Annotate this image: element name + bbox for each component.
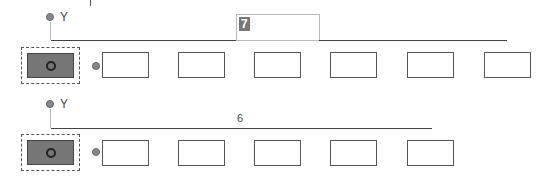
value-editor[interactable]: 7 bbox=[236, 14, 320, 41]
top-tick bbox=[90, 0, 91, 6]
origin-icon bbox=[46, 61, 56, 71]
span-line-right bbox=[319, 40, 507, 41]
span-line bbox=[51, 128, 432, 129]
cell-box[interactable] bbox=[484, 52, 531, 78]
y-connector bbox=[50, 109, 51, 128]
y-handle-icon[interactable] bbox=[46, 13, 54, 21]
cell-box[interactable] bbox=[407, 52, 454, 78]
value-text[interactable]: 6 bbox=[237, 112, 243, 124]
cell-box[interactable] bbox=[178, 52, 225, 78]
x-handle-icon[interactable] bbox=[92, 62, 100, 70]
y-label: Y bbox=[60, 97, 68, 111]
value-text[interactable]: 7 bbox=[239, 17, 250, 31]
x-handle-icon[interactable] bbox=[92, 148, 100, 156]
span-line bbox=[51, 40, 238, 41]
y-label: Y bbox=[60, 10, 68, 24]
origin-icon bbox=[46, 148, 56, 158]
y-handle-icon[interactable] bbox=[46, 100, 54, 108]
y-connector bbox=[50, 22, 51, 40]
anchor-block[interactable] bbox=[27, 53, 74, 78]
cell-box[interactable] bbox=[254, 52, 301, 78]
cell-box[interactable] bbox=[102, 52, 149, 78]
cell-box[interactable] bbox=[178, 140, 225, 166]
cell-box[interactable] bbox=[254, 140, 301, 166]
cell-box[interactable] bbox=[407, 140, 454, 166]
cell-box[interactable] bbox=[330, 52, 377, 78]
anchor-block[interactable] bbox=[27, 140, 74, 165]
cell-box[interactable] bbox=[102, 140, 149, 166]
cell-box[interactable] bbox=[330, 140, 377, 166]
